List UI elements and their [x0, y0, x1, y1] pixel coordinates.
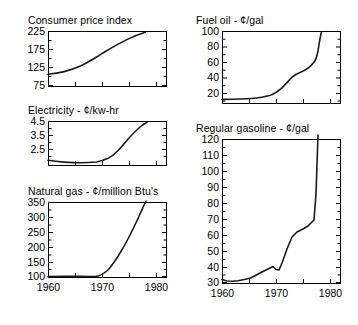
data-line-fuel-oil — [222, 32, 322, 99]
ytick-label-fueloil-60: 60 — [193, 56, 219, 68]
chart-consumer-price-index: Consumer price index — [28, 14, 173, 92]
data-line-electricity — [48, 123, 147, 163]
xtick-label-gasoline-1960: 1960 — [204, 287, 241, 299]
plot-svg-consumer-price-index — [48, 31, 167, 87]
y-major-ticks — [48, 203, 167, 277]
plot-frame — [223, 140, 341, 284]
chart-title-natural-gas: Natural gas - ¢/million Btu's — [28, 185, 158, 197]
ytick-label-fueloil-40: 40 — [193, 71, 219, 83]
y-minor-ticks — [222, 148, 341, 276]
ytick-label-gas-60: 60 — [193, 229, 219, 241]
plot-area-fuel-oil: 100 80 60 40 20 — [222, 31, 341, 104]
plot-area-natural-gas: 350 300 250 200 150 100 1960 1970 1980 — [48, 202, 167, 278]
ytick-label-gas-350: 350 — [17, 196, 45, 208]
y-major-ticks — [48, 32, 167, 86]
chart-fuel-oil: Fuel oil - ¢/gal — [196, 14, 351, 114]
xtick-label-gas-1970: 1970 — [84, 281, 121, 293]
y-minor-ticks — [222, 39, 341, 101]
plot-svg-fuel-oil — [222, 31, 341, 104]
plot-frame — [49, 32, 167, 87]
xtick-label-gasoline-1970: 1970 — [258, 287, 295, 299]
plot-svg-electricity — [48, 121, 167, 166]
ytick-label-gas-50: 50 — [193, 245, 219, 257]
ytick-label-gas-250: 250 — [17, 226, 45, 238]
ytick-label-gas-120: 120 — [193, 133, 219, 145]
chart-electricity: Electricity - ¢/kw-hr — [28, 104, 173, 174]
ytick-label-gas-200: 200 — [17, 241, 45, 253]
data-line-regular-gasoline — [222, 135, 318, 281]
xtick-label-gas-1980: 1980 — [138, 281, 175, 293]
xtick-label-gasoline-1980: 1980 — [312, 287, 349, 299]
plot-svg-regular-gasoline — [222, 139, 341, 284]
plot-area-electricity: 4.5 3.5 2.5 — [48, 121, 167, 166]
data-line-consumer-price-index — [48, 32, 145, 74]
ytick-label-gas-80: 80 — [193, 197, 219, 209]
y-minor-ticks — [48, 129, 167, 157]
ytick-label-cpi-225: 225 — [19, 25, 45, 37]
ytick-label-gas-100: 100 — [193, 165, 219, 177]
ytick-label-electricity-3-5: 3.5 — [19, 129, 45, 141]
xtick-label-gas-1960: 1960 — [30, 281, 67, 293]
chart-natural-gas: Natural gas - ¢/million Btu's — [28, 185, 178, 310]
chart-regular-gasoline: Regular gasoline - ¢/gal — [196, 122, 351, 312]
plot-area-consumer-price-index: 225 175 125 75 — [48, 31, 167, 87]
plot-area-regular-gasoline: 120 110 100 90 80 70 60 50 40 30 1960 19… — [222, 139, 341, 284]
y-major-ticks — [222, 140, 341, 283]
ytick-label-gas-90: 90 — [193, 181, 219, 193]
plot-frame — [49, 203, 167, 278]
ytick-label-cpi-125: 125 — [19, 61, 45, 73]
ytick-label-electricity-2-5: 2.5 — [19, 143, 45, 155]
ytick-label-gas-40: 40 — [193, 261, 219, 273]
ytick-label-fueloil-20: 20 — [193, 87, 219, 99]
y-minor-ticks — [48, 210, 167, 270]
data-line-natural-gas — [48, 201, 146, 277]
ytick-label-fueloil-80: 80 — [193, 40, 219, 52]
ytick-label-gas-70: 70 — [193, 213, 219, 225]
y-major-ticks — [48, 122, 167, 150]
figure-panel-grid: Consumer price index — [0, 0, 358, 325]
plot-frame — [223, 32, 341, 104]
plot-svg-natural-gas — [48, 202, 167, 278]
ytick-label-cpi-75: 75 — [19, 79, 45, 91]
ytick-label-cpi-175: 175 — [19, 43, 45, 55]
ytick-label-electricity-4-5: 4.5 — [19, 115, 45, 127]
ytick-label-fueloil-100: 100 — [193, 25, 219, 37]
y-major-ticks — [222, 32, 341, 94]
ytick-label-gas-150: 150 — [17, 256, 45, 268]
ytick-label-gas-300: 300 — [17, 211, 45, 223]
ytick-label-gas-110: 110 — [193, 149, 219, 161]
